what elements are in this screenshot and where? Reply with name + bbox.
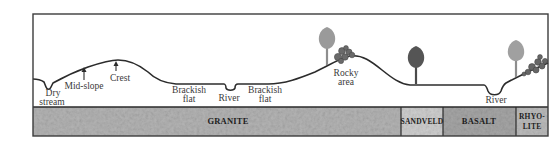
label-river-1: River — [218, 93, 240, 103]
label-rocky-area-line2: area — [338, 77, 355, 87]
strata-band: GRANITE SANDVELD BASALT RHYO- LITE — [33, 107, 548, 136]
label-brackish-flat-2-line2: flat — [259, 94, 272, 104]
label-mid-slope: Mid-slope — [64, 81, 103, 91]
stratum-label-sandveld: SANDVELD — [401, 117, 444, 126]
stratum-label-rhyolite-line1: RHYO- — [519, 112, 545, 121]
label-river-2: River — [485, 95, 507, 105]
stratum-label-granite: GRANITE — [207, 116, 248, 126]
label-dry-stream-line2: stream — [39, 97, 65, 107]
label-brackish-flat-1-line2: flat — [183, 94, 196, 104]
landscape-cross-section-diagram: GRANITE SANDVELD BASALT RHYO- LITE — [0, 0, 557, 146]
stratum-label-basalt: BASALT — [462, 116, 497, 126]
label-crest: Crest — [110, 73, 130, 83]
stratum-label-rhyolite-line2: LITE — [523, 122, 542, 131]
